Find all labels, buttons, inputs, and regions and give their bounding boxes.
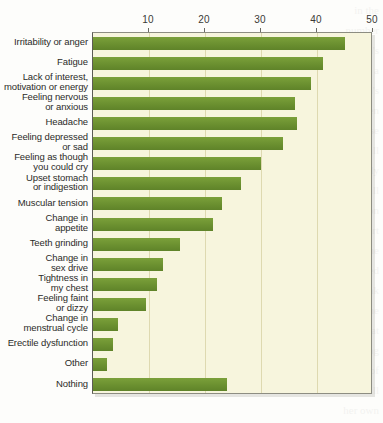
bar	[93, 137, 283, 150]
category-label: Feeling as though you could cry	[14, 152, 88, 172]
bar-row	[93, 157, 261, 170]
bar	[93, 197, 222, 210]
category-label: Upset stomach or indigestion	[26, 173, 88, 193]
bar	[93, 338, 113, 351]
bar-row	[93, 278, 157, 291]
bar-row	[93, 37, 345, 50]
bleed-line: her own	[263, 400, 383, 420]
category-label: Change in menstrual cycle	[24, 313, 89, 333]
bar	[93, 318, 118, 331]
category-label: Other	[65, 358, 88, 368]
bar	[93, 177, 241, 190]
category-label: Change in sex drive	[46, 253, 88, 273]
bar	[93, 117, 297, 130]
bar-row	[93, 117, 297, 130]
category-label: Teeth grinding	[30, 238, 88, 248]
bar-chart: in thenumbera man'show aperson'sof a bro…	[0, 0, 383, 423]
bar	[93, 298, 146, 311]
category-label: Fatigue	[57, 57, 88, 67]
bar-row	[93, 97, 295, 110]
bar-row	[93, 378, 227, 391]
x-tick-label: 50	[366, 14, 378, 25]
bar	[93, 378, 227, 391]
category-label: Feeling nervous or anxious	[22, 92, 88, 112]
bar	[93, 218, 213, 231]
bar-row	[93, 238, 180, 251]
bar-row	[93, 258, 163, 271]
x-tick-mark	[372, 28, 373, 32]
bar	[93, 238, 180, 251]
category-label: Nothing	[56, 379, 88, 389]
category-label: Muscular tension	[18, 198, 88, 208]
bar-row	[93, 318, 118, 331]
category-label: Lack of interest, motivation or energy	[4, 72, 88, 92]
category-label: Change in appetite	[46, 213, 88, 233]
bar-row	[93, 177, 241, 190]
bar-row	[93, 137, 283, 150]
bar-row	[93, 298, 146, 311]
bar	[93, 157, 261, 170]
bar-row	[93, 197, 222, 210]
bar	[93, 37, 345, 50]
bar-row	[93, 57, 323, 70]
x-tick-label: 10	[142, 14, 154, 25]
bar-series	[93, 33, 371, 393]
bar-row	[93, 358, 107, 371]
bar	[93, 358, 107, 371]
bar-row	[93, 77, 311, 90]
category-label: Irritability or anger	[14, 37, 88, 47]
x-tick-label: 30	[254, 14, 266, 25]
x-tick-label: 40	[310, 14, 322, 25]
bar	[93, 77, 311, 90]
x-tick-label: 20	[198, 14, 210, 25]
x-axis: 1020304050	[92, 14, 372, 32]
category-label: Erectile dysfunction	[8, 338, 88, 348]
category-labels: Irritability or angerFatigueLack of inte…	[0, 32, 90, 394]
plot-area	[92, 32, 372, 394]
category-label: Tightness in my chest	[38, 273, 88, 293]
bar-row	[93, 218, 213, 231]
bar-row	[93, 338, 113, 351]
bar	[93, 278, 157, 291]
category-label: Feeling faint or dizzy	[38, 293, 88, 313]
category-label: Headache	[45, 117, 88, 127]
bar	[93, 258, 163, 271]
bar	[93, 57, 323, 70]
category-label: Feeling depressed or sad	[12, 132, 88, 152]
bar	[93, 97, 295, 110]
